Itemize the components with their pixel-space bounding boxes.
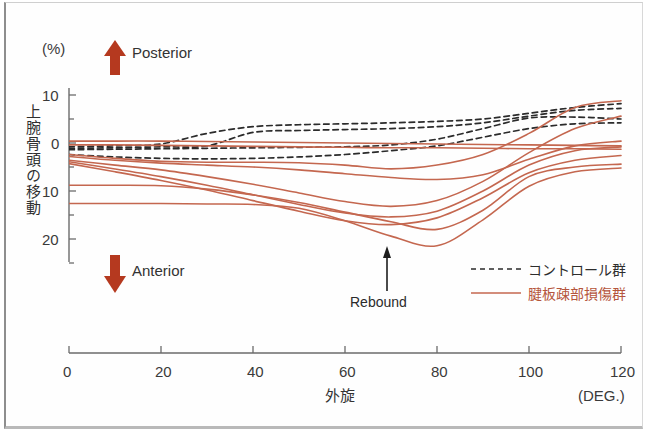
posterior-arrow-icon [104, 40, 126, 75]
legend-swatches [471, 269, 521, 293]
curve-injury-7 [69, 101, 621, 169]
anterior-arrow-icon [104, 255, 126, 293]
rebound-arrow-icon [383, 246, 391, 291]
y-axis [69, 88, 76, 263]
x-axis [69, 346, 621, 353]
plot-area [0, 0, 649, 434]
curve-injury-12 [69, 168, 621, 246]
figure-page: 上腕骨頭の移動 (%) Posterior Anterior Rebound コ… [0, 0, 649, 434]
data-curves [69, 101, 621, 247]
